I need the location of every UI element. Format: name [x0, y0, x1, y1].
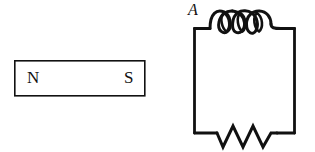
magnet-north-label: N [27, 69, 39, 86]
coil-loop-inner-1 [221, 13, 229, 32]
diagram-canvas [0, 0, 315, 152]
circuit-loop [195, 29, 295, 134]
resistor-path [217, 126, 277, 147]
resistor-zigzag [217, 126, 277, 147]
coil-exit-lead [271, 24, 281, 29]
physics-diagram-figure: N S A [0, 0, 315, 152]
coil-point-a-label: A [188, 2, 198, 18]
magnet-south-label: S [124, 69, 133, 86]
